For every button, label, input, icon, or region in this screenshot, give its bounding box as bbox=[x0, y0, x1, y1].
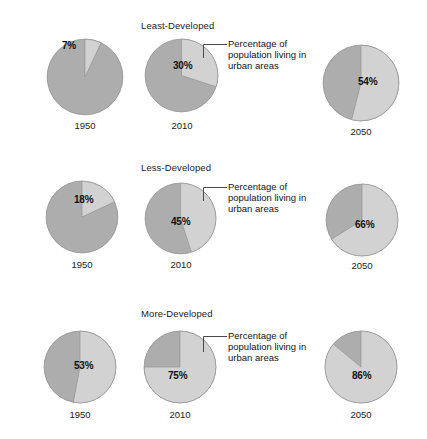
pie-value-label: 30% bbox=[173, 60, 192, 71]
group-title-more-developed: More-Developed bbox=[141, 308, 213, 319]
callout-line-2: population living in bbox=[228, 49, 306, 60]
callout-line-3: urban areas bbox=[228, 352, 279, 363]
pie-value-label: 54% bbox=[358, 76, 377, 87]
pie-year-label: 2050 bbox=[331, 126, 391, 137]
pie-year-label: 2050 bbox=[332, 260, 392, 271]
callout-line-1: Percentage of bbox=[228, 181, 287, 192]
pie-chart-figure: Least-Developed 7% 1950 30% 2010 Percent… bbox=[0, 0, 427, 439]
callout-line-2: population living in bbox=[228, 341, 306, 352]
pie-value-label: 53% bbox=[74, 360, 93, 371]
pie-least-developed-1950 bbox=[46, 38, 124, 116]
pie-svg bbox=[46, 38, 124, 116]
pie-year-label: 1950 bbox=[52, 259, 112, 270]
chart-group-less-developed: Less-Developed 18% 1950 45% 2010 Percent… bbox=[0, 146, 427, 292]
callout-line-3: urban areas bbox=[228, 203, 279, 214]
pie-value-label: 18% bbox=[74, 194, 93, 205]
callout-line-1: Percentage of bbox=[228, 330, 287, 341]
pie-more-developed-2050 bbox=[324, 330, 398, 404]
group-title-least-developed: Least-Developed bbox=[141, 20, 214, 31]
chart-group-more-developed: More-Developed 53% 1950 75% 2010 Percent… bbox=[0, 292, 427, 438]
pie-less-developed-1950 bbox=[45, 180, 119, 254]
callout-line-3: urban areas bbox=[228, 60, 279, 71]
pie-year-label: 2010 bbox=[150, 409, 210, 420]
pie-value-label: 7% bbox=[62, 40, 76, 51]
callout-leader-line bbox=[202, 184, 228, 202]
callout-line-2: population living in bbox=[228, 192, 306, 203]
chart-group-least-developed: Least-Developed 7% 1950 30% 2010 Percent… bbox=[0, 0, 427, 146]
pie-value-label: 75% bbox=[168, 370, 187, 381]
pie-year-label: 2050 bbox=[331, 409, 391, 420]
pie-svg bbox=[324, 330, 398, 404]
pie-svg bbox=[45, 180, 119, 254]
pie-year-label: 2010 bbox=[152, 120, 212, 131]
callout-leader-line bbox=[202, 333, 228, 353]
pie-year-label: 1950 bbox=[50, 409, 110, 420]
group-title-less-developed: Less-Developed bbox=[141, 162, 211, 173]
pie-year-label: 2010 bbox=[151, 259, 211, 270]
pie-value-label: 45% bbox=[171, 216, 190, 227]
pie-value-label: 66% bbox=[355, 219, 374, 230]
callout-leader-line bbox=[202, 41, 228, 59]
pie-value-label: 86% bbox=[352, 370, 371, 381]
pie-year-label: 1950 bbox=[55, 120, 115, 131]
callout-line-1: Percentage of bbox=[228, 38, 287, 49]
